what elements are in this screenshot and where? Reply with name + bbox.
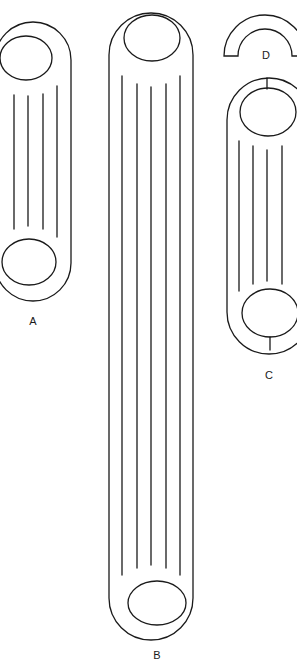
component-a (0, 22, 71, 301)
bottom-port-ellipse (128, 581, 186, 625)
capsule-outline (227, 78, 297, 354)
top-port-ellipse (0, 36, 52, 80)
capsule-outline (0, 22, 71, 301)
top-port-ellipse (240, 88, 296, 136)
label-d: D (262, 49, 270, 61)
component-b (109, 13, 193, 640)
label-b: B (153, 649, 160, 661)
component-c (227, 78, 297, 354)
label-a: A (29, 315, 37, 327)
component-d (224, 15, 297, 56)
bottom-port-ellipse (242, 289, 297, 337)
half-ring-cap (224, 15, 297, 56)
top-port-ellipse (124, 15, 180, 61)
label-c: C (265, 369, 273, 381)
bottom-port-ellipse (2, 239, 56, 285)
tube-bundle-diagram: A B C D (0, 0, 297, 668)
